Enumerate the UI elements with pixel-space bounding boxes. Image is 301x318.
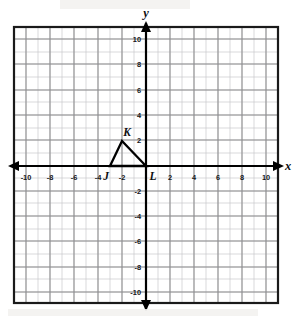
x-tick-label: -6 — [71, 173, 78, 182]
coordinate-plane-figure: -10 -8 -6 -4 -2 2 4 6 8 10 10 8 6 4 2 -2… — [0, 0, 301, 318]
scan-artifact-top — [60, 0, 190, 9]
y-tick-label: -2 — [134, 187, 141, 196]
x-tick-label: 8 — [240, 173, 244, 182]
vertex-label-k: K — [122, 126, 132, 138]
x-tick-label: -2 — [119, 173, 126, 182]
y-tick-label: 2 — [137, 136, 141, 145]
y-tick-label: 10 — [133, 35, 141, 44]
vertex-label-l: L — [148, 170, 156, 182]
y-tick-label: -6 — [134, 237, 141, 246]
y-tick-label: -10 — [130, 288, 141, 297]
x-tick-label: 2 — [168, 173, 172, 182]
x-tick-label: -10 — [21, 173, 32, 182]
y-tick-label: 6 — [137, 86, 141, 95]
x-tick-label: -8 — [47, 173, 54, 182]
figure-background — [0, 0, 301, 318]
x-tick-label: -4 — [95, 173, 102, 182]
x-tick-label: 10 — [262, 173, 270, 182]
y-tick-label: 8 — [137, 60, 141, 69]
x-tick-label: 6 — [216, 173, 220, 182]
y-tick-label: -8 — [134, 263, 141, 272]
x-axis-label: x — [284, 159, 291, 173]
y-tick-label: -4 — [134, 212, 141, 221]
scan-artifact-bottom — [8, 309, 258, 316]
